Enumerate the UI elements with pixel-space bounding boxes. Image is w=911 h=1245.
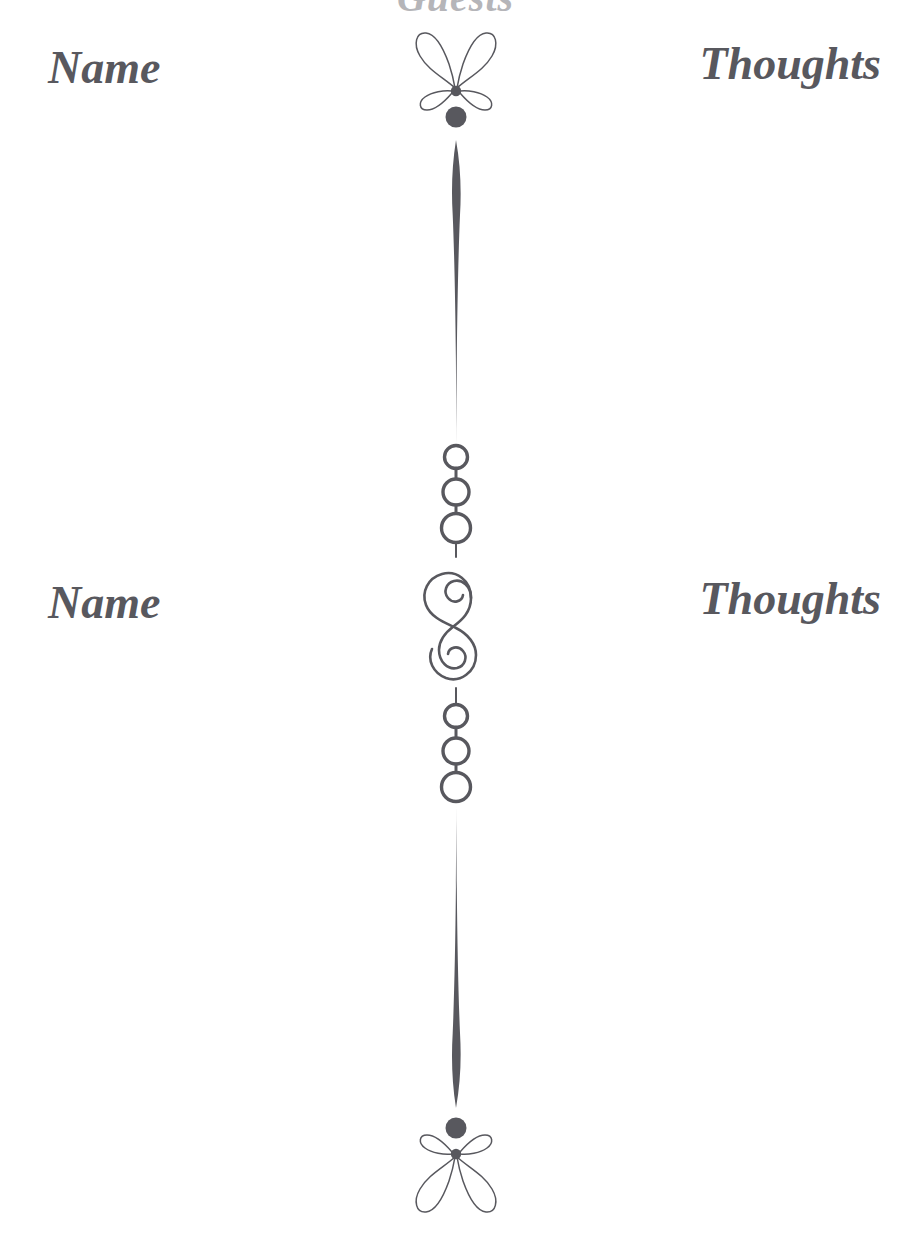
stem-lower-shape [451, 805, 460, 1108]
circle-trio-lower-icon [441, 688, 470, 802]
thoughts-write-area-2[interactable] [557, 648, 887, 1188]
guestbook-page: Guests Name Thoughts Name Thoughts [0, 0, 911, 1245]
name-label-1: Name [48, 45, 160, 91]
name-write-area-1[interactable] [40, 110, 370, 540]
name-write-area-2[interactable] [40, 648, 370, 1188]
circle-trio-upper-icon [441, 446, 470, 558]
divider-graphic [376, 0, 536, 1245]
name-label-2: Name [48, 580, 160, 626]
thoughts-label-1: Thoughts [699, 41, 881, 87]
thoughts-label-2: Thoughts [699, 576, 881, 622]
fleuron-top-icon [416, 33, 496, 128]
ornamental-divider [376, 0, 536, 1245]
thoughts-write-area-1[interactable] [557, 110, 887, 540]
s-scroll-icon [424, 573, 476, 679]
stem-upper-shape [451, 140, 460, 443]
fleuron-bottom-icon [416, 1118, 496, 1213]
